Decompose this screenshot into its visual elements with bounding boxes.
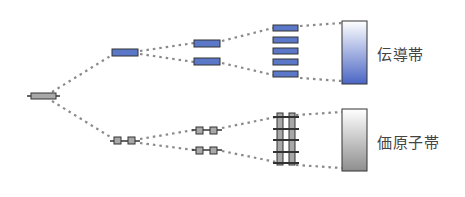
bonding-orbital-2b bbox=[192, 147, 222, 154]
band-formation-diagram bbox=[0, 0, 465, 197]
antibonding-orbital-1 bbox=[112, 49, 138, 56]
conduction-band-box bbox=[342, 21, 367, 84]
valence-band-label: 価原子帯 bbox=[377, 131, 439, 152]
bonding-orbital-2a bbox=[192, 127, 222, 134]
antibonding-orbital-2b bbox=[194, 58, 220, 65]
bonding-orbital-1 bbox=[110, 137, 140, 144]
atomic-orbital bbox=[27, 93, 60, 99]
valence-band-box bbox=[342, 109, 367, 171]
bonding-orbital-ladder bbox=[273, 113, 299, 165]
conduction-band-label: 伝導帯 bbox=[377, 43, 424, 64]
antibonding-orbital-stack bbox=[273, 25, 298, 77]
antibonding-orbital-2a bbox=[194, 40, 220, 47]
